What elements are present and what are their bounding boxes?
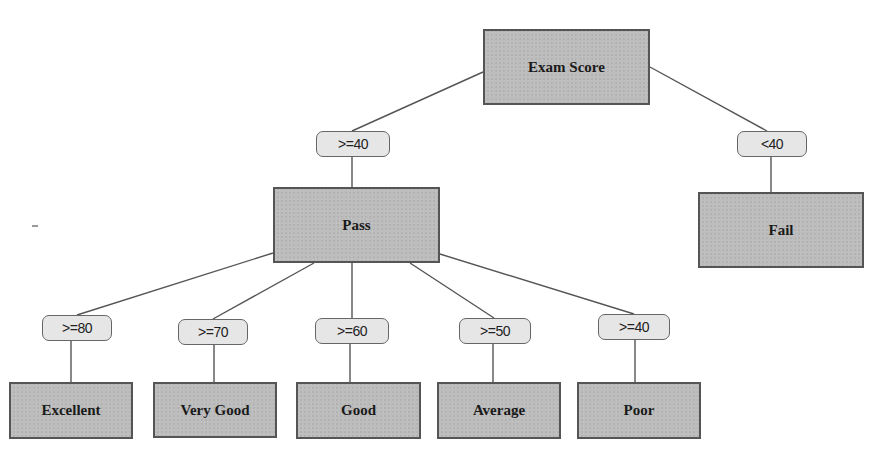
condition-fail-threshold: <40 bbox=[737, 131, 807, 157]
node-fail: Fail bbox=[698, 192, 864, 268]
condition-label: >=50 bbox=[480, 323, 510, 339]
condition-label: >=40 bbox=[619, 319, 649, 335]
edge-line bbox=[650, 67, 767, 131]
condition-poor-threshold: >=40 bbox=[598, 314, 670, 340]
node-very-good: Very Good bbox=[153, 382, 277, 438]
edge-line bbox=[352, 72, 483, 131]
node-label: Fail bbox=[769, 222, 794, 239]
node-label: Poor bbox=[624, 402, 655, 419]
node-average: Average bbox=[437, 382, 561, 439]
edge-line bbox=[410, 263, 494, 318]
condition-excellent-threshold: >=80 bbox=[42, 315, 112, 341]
node-label: Good bbox=[341, 402, 376, 419]
condition-label: <40 bbox=[761, 136, 783, 152]
condition-label: >=70 bbox=[198, 324, 228, 340]
condition-very-good-threshold: >=70 bbox=[178, 319, 248, 345]
node-label: Exam Score bbox=[528, 59, 605, 76]
node-good: Good bbox=[296, 382, 421, 439]
condition-pass-threshold: >=40 bbox=[316, 131, 390, 157]
node-label: Excellent bbox=[41, 402, 100, 419]
edge-line bbox=[440, 254, 634, 314]
edge-line bbox=[213, 263, 314, 319]
condition-average-threshold: >=50 bbox=[459, 318, 531, 344]
condition-label: >=40 bbox=[338, 136, 368, 152]
node-excellent: Excellent bbox=[9, 382, 133, 439]
node-pass: Pass bbox=[273, 187, 440, 263]
condition-good-threshold: >=60 bbox=[315, 318, 389, 344]
node-exam-score: Exam Score bbox=[483, 29, 650, 105]
condition-label: >=80 bbox=[62, 320, 92, 336]
decision-tree-diagram: Exam Score >=40 <40 Pass Fail >=80 >=70 … bbox=[0, 0, 882, 457]
node-label: Very Good bbox=[180, 402, 249, 419]
node-label: Average bbox=[473, 402, 525, 419]
stray-mark bbox=[32, 225, 38, 227]
edge-line bbox=[77, 253, 273, 315]
node-poor: Poor bbox=[577, 382, 701, 439]
condition-label: >=60 bbox=[337, 323, 367, 339]
node-label: Pass bbox=[342, 217, 370, 234]
